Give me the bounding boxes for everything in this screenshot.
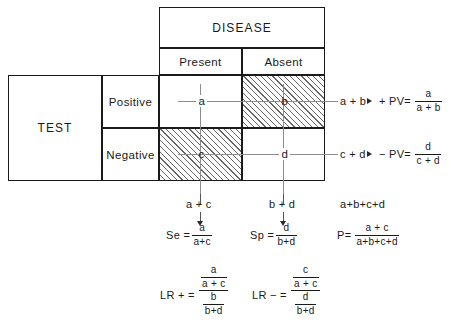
likelihood-ratio-positive-fraction: a a + c b b+d — [199, 265, 228, 316]
negative-predictive-value-fraction: d c + d — [415, 142, 441, 166]
lr-negative-denominator-fraction: d b+d — [295, 292, 316, 316]
lr-positive-denominator: b b+d — [202, 292, 226, 316]
specificity-denominator: b+d — [276, 237, 297, 248]
lr-negative-num-den: a + c — [293, 279, 319, 290]
column-total-sum-present: a + c — [186, 198, 212, 210]
sensitivity-fraction: a a+c — [192, 223, 212, 247]
sensitivity-denominator: a+c — [192, 237, 212, 248]
arrow-right-icon-negative — [367, 151, 372, 157]
negative-predictive-value-label: − PV= — [379, 148, 411, 160]
lr-negative-denominator: d b+d — [294, 292, 318, 316]
data-cell-value-b: b — [279, 95, 290, 107]
ppv-denominator: a + b — [415, 103, 442, 114]
disease-header-label: DISEASE — [159, 7, 325, 48]
prevalence-numerator: a + c — [364, 223, 390, 234]
lr-positive-den-num: b — [209, 292, 218, 303]
lr-negative-num-num: c — [302, 265, 310, 276]
lr-positive-denominator-fraction: b b+d — [203, 292, 224, 316]
npv-numerator: d — [424, 142, 433, 153]
likelihood-ratio-negative-fraction: c a + c d b+d — [291, 265, 320, 316]
row-header-label-positive: Positive — [102, 75, 159, 128]
ppv-numerator: a — [424, 89, 433, 100]
figure-canvas: DISEASE Present Absent TEST Positive Neg… — [0, 0, 451, 327]
positive-predictive-value-label: + PV= — [379, 95, 411, 107]
arrow-right-icon-positive — [367, 98, 372, 104]
npv-denominator: c + d — [415, 156, 441, 167]
column-header-label-absent: Absent — [242, 48, 325, 75]
lr-negative-den-num: d — [301, 292, 310, 303]
prevalence-fraction: a + c a+b+c+d — [355, 223, 399, 247]
column-total-sum-absent: b + d — [269, 198, 295, 210]
lr-negative-numerator: c a + c — [291, 265, 320, 289]
test-group-label: TEST — [8, 75, 102, 181]
specificity-numerator: d — [282, 223, 291, 234]
row-total-sum-negative: c + d — [340, 148, 366, 160]
lr-positive-numerator: a a + c — [199, 265, 228, 289]
sensitivity-label: Se = — [166, 229, 190, 241]
likelihood-ratio-negative-label: LR − = — [252, 289, 287, 301]
lr-positive-num-den: a + c — [201, 279, 227, 290]
lr-positive-num-num: a — [209, 265, 218, 276]
sensitivity-numerator: a — [198, 223, 207, 234]
lr-positive-numerator-fraction: a a + c — [201, 265, 227, 289]
row-total-sum-positive: a + b — [340, 95, 366, 107]
prevalence-denominator: a+b+c+d — [355, 237, 399, 248]
positive-predictive-value-fraction: a a + b — [415, 89, 442, 113]
column-header-label-present: Present — [159, 48, 242, 75]
data-cell-value-d: d — [279, 148, 290, 160]
lr-positive-den-den: b+d — [203, 306, 224, 317]
likelihood-ratio-positive-label: LR + = — [160, 289, 195, 301]
specificity-label: Sp = — [250, 229, 274, 241]
row-header-label-negative: Negative — [102, 128, 159, 181]
grand-total-sum: a+b+c+d — [340, 198, 385, 210]
lr-negative-numerator-fraction: c a + c — [293, 265, 319, 289]
data-cell-value-c: c — [196, 148, 207, 160]
specificity-fraction: d b+d — [276, 223, 297, 247]
data-cell-value-a: a — [196, 95, 207, 107]
prevalence-label: P= — [337, 229, 351, 241]
lr-negative-den-den: b+d — [295, 306, 316, 317]
